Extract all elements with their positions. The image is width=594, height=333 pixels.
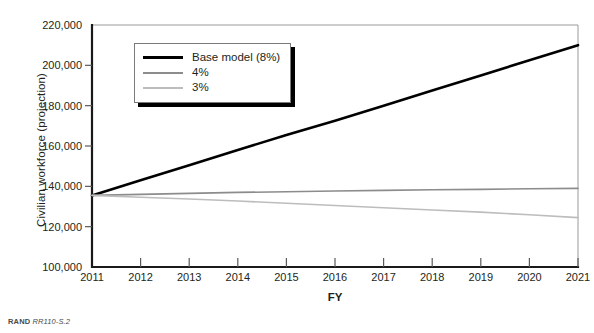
legend-swatch-icon bbox=[143, 87, 183, 89]
source-note-id: RR110-S.2 bbox=[33, 317, 70, 326]
figure-container: Civilian workforce (projection) 100,0001… bbox=[0, 0, 594, 333]
legend-swatch-icon bbox=[143, 56, 183, 59]
legend-item: Base model (8%) bbox=[143, 50, 280, 65]
series-line-2 bbox=[92, 195, 578, 217]
source-note: RAND RR110-S.2 bbox=[8, 317, 70, 326]
source-note-brand: RAND bbox=[8, 317, 30, 326]
series-line-1 bbox=[92, 188, 578, 195]
legend-item: 3% bbox=[143, 80, 280, 95]
plot-area bbox=[0, 0, 594, 333]
legend-swatch-icon bbox=[143, 72, 183, 74]
legend-label: 3% bbox=[192, 81, 209, 94]
legend-label: 4% bbox=[192, 66, 209, 79]
legend-label: Base model (8%) bbox=[192, 51, 280, 64]
chart-legend: Base model (8%)4%3% bbox=[134, 43, 291, 103]
legend-item: 4% bbox=[143, 65, 280, 80]
